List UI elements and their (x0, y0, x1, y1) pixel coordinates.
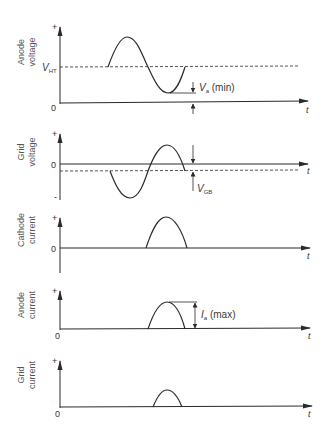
y-axis-label-anode-voltage-2: voltage (27, 37, 37, 66)
t-axis-label: t (308, 409, 311, 419)
plus-label: + (52, 213, 57, 223)
panel-grid-voltage: Grid voltage + - 0 t VGB (16, 129, 310, 202)
ia-max-label: Ia (max) (201, 309, 235, 321)
y-axis-label-grid-voltage-1: Grid (16, 143, 26, 160)
y-axis-label-anode-voltage-1: Anode (16, 39, 26, 65)
plus-label: + (52, 129, 57, 139)
vht-dashed-line (60, 66, 300, 67)
zero-label: 0 (51, 244, 56, 254)
x-axis (60, 101, 308, 103)
grid-current-pulse (153, 390, 182, 407)
panel-anode-voltage: Anode voltage + 0 t VHT Va (min) (16, 22, 309, 115)
panel-anode-current: Anode current + 0 t Ia (max) (16, 286, 311, 341)
anode-voltage-waveform (108, 37, 185, 93)
y-axis-label-grid-current-1: Grid (16, 366, 26, 383)
vgb-label: VGB (197, 183, 212, 195)
zero-label: 0 (55, 409, 60, 419)
t-axis-label: t (307, 251, 310, 261)
y-axis-label-cathode-current-2: current (27, 215, 37, 244)
vgb-dashed-line (60, 170, 300, 171)
panel-cathode-current: Cathode current + 0 t (16, 213, 310, 273)
panel-grid-current: Grid current + 0 t (16, 356, 312, 419)
zero-label: 0 (55, 331, 60, 341)
x-axis (60, 406, 312, 407)
zero-label: 0 (51, 160, 56, 170)
valve-waveform-diagram: Anode voltage + 0 t VHT Va (min) Grid vo… (0, 0, 327, 442)
y-axis-label-cathode-current-1: Cathode (16, 213, 26, 247)
y-axis-label-anode-current-1: Anode (16, 292, 26, 318)
vht-label: VHT (42, 62, 57, 74)
y-axis-label-grid-voltage-2: voltage (27, 137, 37, 166)
zero-label: 0 (51, 103, 56, 113)
t-axis-label: t (307, 166, 310, 176)
plus-label: + (52, 22, 57, 32)
y-axis-label-anode-current-2: current (27, 290, 37, 319)
grid-voltage-waveform (110, 145, 185, 198)
plus-label: + (52, 356, 57, 366)
t-axis-label: t (308, 331, 311, 341)
cathode-current-pulse (146, 217, 187, 248)
va-min-label: Va (min) (199, 82, 235, 94)
plus-label: + (52, 286, 57, 296)
y-axis-label-grid-current-2: current (27, 360, 37, 389)
anode-current-pulse (148, 302, 185, 329)
t-axis-label: t (306, 105, 309, 115)
minus-label: - (54, 192, 57, 202)
